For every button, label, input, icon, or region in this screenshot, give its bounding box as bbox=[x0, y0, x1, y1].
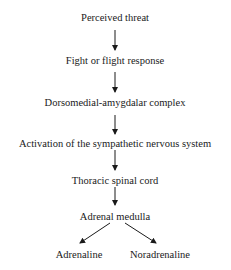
flow-arrows bbox=[0, 0, 231, 270]
node-perceived-threat: Perceived threat bbox=[81, 13, 149, 24]
arrow-n6-n7 bbox=[80, 223, 110, 243]
node-dorsomedial-amygdalar-complex: Dorsomedial-amygdalar complex bbox=[45, 98, 186, 109]
node-sympathetic-activation: Activation of the sympathetic nervous sy… bbox=[19, 139, 211, 150]
node-adrenal-medulla: Adrenal medulla bbox=[80, 212, 150, 223]
node-noradrenaline: Noradrenaline bbox=[130, 250, 190, 261]
node-thoracic-spinal-cord: Thoracic spinal cord bbox=[72, 176, 158, 187]
node-fight-or-flight-response: Fight or flight response bbox=[66, 56, 164, 67]
node-adrenaline: Adrenaline bbox=[56, 250, 103, 261]
arrow-n6-n8 bbox=[125, 223, 156, 243]
